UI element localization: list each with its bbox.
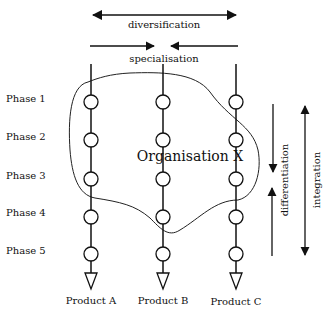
phase-node	[156, 210, 170, 224]
phase-node	[84, 95, 98, 109]
diversification-label: diversification	[128, 19, 201, 30]
phase-node	[156, 95, 170, 109]
phase-node	[229, 133, 243, 147]
specialisation-label: specialisation	[129, 53, 199, 64]
phase-node	[156, 133, 170, 147]
diagram-canvas: diversification specialisation Organisat…	[0, 0, 331, 313]
phase-node	[229, 210, 243, 224]
product-column-a	[84, 64, 98, 289]
phase-label-3: Phase 3	[6, 170, 46, 181]
phase-node	[84, 172, 98, 186]
phase-label-1: Phase 1	[6, 93, 46, 104]
product-column-b	[156, 64, 170, 289]
integration-label: integration	[311, 151, 322, 208]
phase-node	[84, 247, 98, 261]
product-label-a: Product A	[66, 295, 117, 306]
phase-label-4: Phase 4	[6, 207, 46, 218]
phase-label-5: Phase 5	[6, 245, 46, 256]
phase-node	[229, 247, 243, 261]
product-label-b: Product B	[138, 295, 189, 306]
organisation-label: Organisation X	[137, 148, 244, 164]
product-output-arrow	[85, 273, 97, 289]
phase-node	[84, 133, 98, 147]
product-output-arrow	[230, 273, 242, 289]
phase-node	[156, 172, 170, 186]
product-output-arrow	[157, 273, 169, 289]
product-label-c: Product C	[211, 296, 262, 307]
differentiation-label: differentiation	[279, 143, 290, 216]
phase-label-2: Phase 2	[6, 131, 46, 142]
product-column-c	[229, 64, 243, 289]
phase-node	[84, 210, 98, 224]
phase-node	[229, 95, 243, 109]
phase-node	[229, 172, 243, 186]
phase-node	[156, 247, 170, 261]
